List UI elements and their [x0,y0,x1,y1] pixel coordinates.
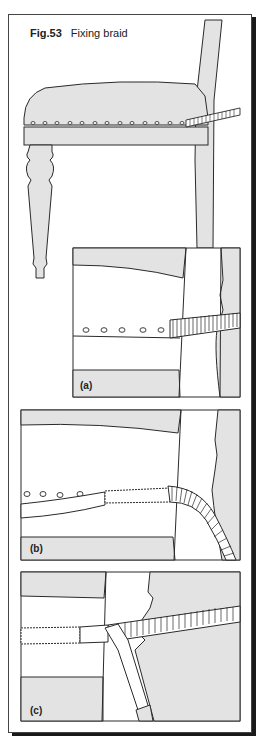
front-leg [26,145,53,278]
panel-label-a: (a) [80,380,92,391]
seat-rail [24,127,208,145]
panel-label-c: (c) [30,705,42,716]
panel-label-b: (b) [30,543,43,554]
seat-cushion [24,82,208,125]
chair-illustration [0,0,264,744]
panel-b [21,410,240,560]
panel-a [73,248,240,397]
panel-c [21,572,240,721]
